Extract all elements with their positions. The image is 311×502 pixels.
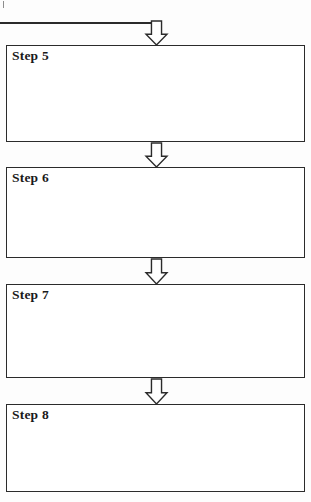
process-box-step-7[interactable]: Step 7 — [6, 284, 305, 378]
scan-tick-mark — [3, 1, 4, 8]
process-box-step-8[interactable]: Step 8 — [6, 404, 305, 492]
step-label: Step 6 — [12, 170, 49, 186]
incoming-flow-line — [0, 22, 162, 24]
arrow-down-step-7-to-step-8 — [146, 379, 167, 404]
step-label: Step 7 — [12, 287, 49, 303]
arrow-down-step-6-to-step-7 — [146, 259, 167, 284]
step-label: Step 5 — [12, 48, 49, 64]
flowchart-diagram: Step 5 Step 6 Step 7 Step 8 — [0, 0, 311, 502]
arrow-down-step-5-to-step-6 — [146, 143, 167, 167]
process-box-step-5[interactable]: Step 5 — [6, 45, 305, 142]
step-label: Step 8 — [12, 407, 49, 423]
arrow-down-into-step-5 — [146, 21, 167, 45]
process-box-step-6[interactable]: Step 6 — [6, 167, 305, 258]
